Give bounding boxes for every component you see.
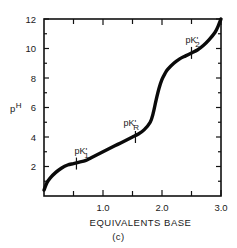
y-axis-title: pH [10, 101, 22, 114]
titration-chart: pK'1pK'RpK'2 1.02.03.024681012EQUIVALENT… [0, 0, 237, 248]
y-tick-label: 4 [31, 132, 36, 143]
pk-label: pK'R [123, 118, 139, 132]
x-tick-label: 1.0 [96, 202, 109, 213]
x-axis-title: EQUIVALENTS BASE [90, 217, 192, 228]
y-tick-label: 10 [25, 43, 36, 54]
x-tick-label: 2.0 [155, 202, 168, 213]
chart-caption: (c) [112, 231, 125, 242]
x-tick-label: 3.0 [214, 202, 227, 213]
y-tick-label: 8 [31, 73, 36, 84]
pk-label: pK'1 [74, 146, 89, 160]
pk-label: pK'2 [186, 35, 201, 49]
y-tick-label: 6 [31, 102, 36, 113]
pk-annotations: pK'1pK'RpK'2 [74, 35, 200, 170]
y-tick-label: 2 [31, 161, 36, 172]
y-tick-label: 12 [25, 14, 36, 25]
